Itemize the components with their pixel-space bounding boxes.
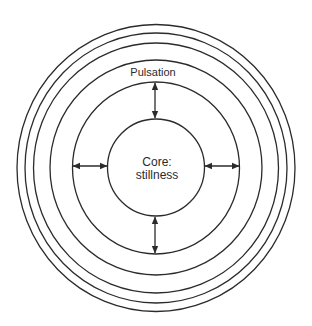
pulsation-diagram: Pulsation Core: stillness — [0, 0, 312, 326]
pulsation-label: Pulsation — [130, 66, 175, 78]
core-label-line1: Core: — [142, 155, 171, 169]
core-label-line2: stillness — [136, 168, 179, 182]
